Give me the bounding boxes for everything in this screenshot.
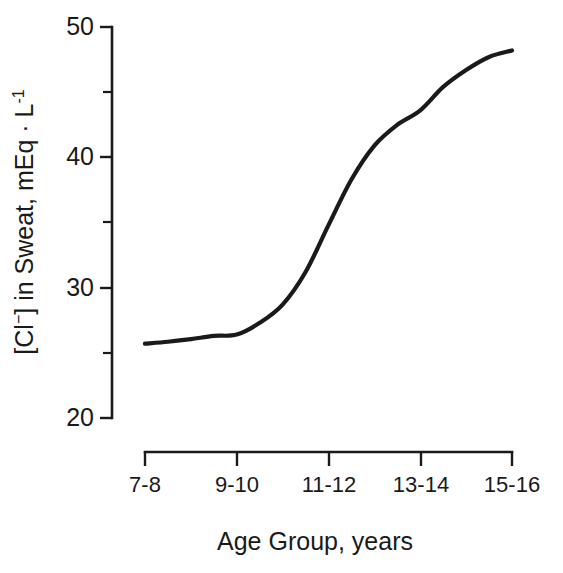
data-series-line	[145, 50, 512, 343]
x-tick-label-13-14: 13-14	[393, 472, 449, 497]
y-axis-title-mid: ] in Sweat, mEq · L	[10, 103, 38, 314]
x-tick-label-7-8: 7-8	[129, 472, 161, 497]
y-axis-title-sup-exp: -1	[10, 89, 27, 103]
y-tick-label-30: 30	[66, 273, 94, 301]
y-axis-title-sup-minus: −	[10, 315, 27, 324]
y-tick-label-40: 40	[66, 142, 94, 170]
x-tick-label-15-16: 15-16	[484, 472, 540, 497]
y-tick-label-20: 20	[66, 403, 94, 431]
svg-text:[Cl−] in Sweat, mEq · L-1: [Cl−] in Sweat, mEq · L-1	[10, 89, 38, 354]
y-tick-label-50: 50	[66, 12, 94, 40]
x-tick-label-9-10: 9-10	[215, 472, 259, 497]
x-axis-title: Age Group, years	[217, 527, 413, 555]
y-axis-title: [Cl−] in Sweat, mEq · L-1	[10, 89, 38, 354]
x-tick-label-11-12: 11-12	[302, 472, 357, 497]
chart-figure: 50 40 30 20 [Cl−] in Sweat, mEq · L-1 7-…	[0, 0, 563, 573]
y-axis-title-pre: [Cl	[10, 324, 38, 355]
chart-canvas: 50 40 30 20 [Cl−] in Sweat, mEq · L-1 7-…	[0, 0, 563, 573]
